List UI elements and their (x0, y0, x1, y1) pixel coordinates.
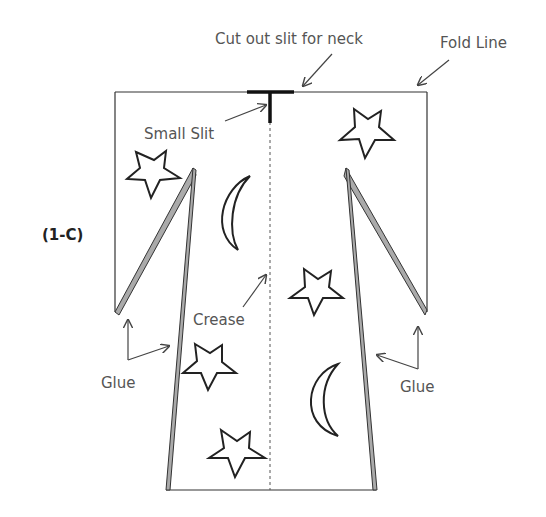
star-icon (290, 269, 343, 315)
pattern-outline (115, 92, 427, 490)
moon-icon (311, 364, 338, 436)
star-icon (127, 151, 180, 198)
small-slit-label: Small Slit (144, 125, 214, 143)
figure-label: (1-C) (42, 226, 83, 244)
cut-slit-arrow (303, 54, 332, 86)
fold-line-arrow (418, 60, 449, 85)
left-glue-label: Glue (101, 374, 136, 392)
right-glue-label: Glue (400, 378, 435, 396)
crease-arrow (243, 275, 266, 307)
moon-icon (222, 176, 250, 250)
crease-label: Crease (193, 311, 245, 329)
star-icon (340, 109, 394, 158)
left-glue-arrow-right (128, 346, 169, 360)
star-icon (209, 430, 265, 477)
star-icon (183, 344, 236, 390)
small-slit-arrow (225, 105, 266, 121)
fold-line-label: Fold Line (440, 34, 507, 52)
costume-pattern-diagram: Cut out slit for neck Fold Line Small Sl… (0, 0, 546, 517)
neck-slit (247, 92, 294, 123)
right-glue-arrow-left (377, 355, 418, 369)
cut-slit-label: Cut out slit for neck (215, 30, 363, 48)
